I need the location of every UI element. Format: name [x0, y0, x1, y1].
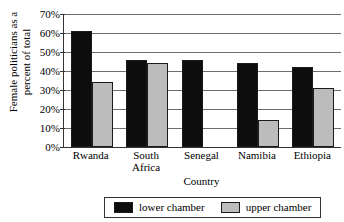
bar-group [182, 14, 224, 147]
y-axis-tick-label: 60% [40, 28, 60, 39]
y-axis-tick-mark [60, 147, 65, 148]
bar-lower-chamber [237, 63, 258, 147]
y-axis-tick-label: 30% [40, 85, 60, 96]
legend-entry: upper chamber [221, 202, 312, 213]
x-axis-tick-label: South Africa [118, 149, 173, 173]
legend-swatch-icon [114, 202, 133, 213]
y-axis-title-line-1: Female politicians as a [7, 12, 20, 113]
bar-upper-chamber [147, 63, 168, 147]
x-axis-tick-label: Namibia [229, 149, 284, 161]
bar-upper-chamber [258, 120, 279, 147]
bar-lower-chamber [71, 31, 92, 147]
legend-entry: lower chamber [114, 202, 205, 213]
chart-legend: lower chamberupper chamber [104, 197, 321, 218]
bar-chart-figure: Female politicians as a percent of total… [0, 0, 344, 222]
bar-lower-chamber [292, 67, 313, 147]
bars-layer [64, 14, 341, 147]
y-axis-tick-label: 70% [40, 9, 60, 20]
y-axis-tick-label: 0% [45, 142, 60, 153]
y-axis-tick-label: 50% [40, 47, 60, 58]
bar-lower-chamber [126, 60, 147, 147]
y-axis-tick-label: 10% [40, 123, 60, 134]
plot-area [63, 14, 341, 148]
bar-upper-chamber [92, 82, 113, 147]
x-axis-tick-label: Rwanda [63, 149, 118, 161]
legend-label: lower chamber [139, 202, 205, 213]
x-axis-tick-labels: RwandaSouth AfricaSenegalNamibiaEthiopia [63, 149, 340, 175]
bar-lower-chamber [182, 60, 203, 147]
bar-group [126, 14, 168, 147]
bar-group [71, 14, 113, 147]
bar-group [292, 14, 334, 147]
legend-swatch-icon [221, 202, 240, 213]
x-axis-tick-label: Ethiopia [285, 149, 340, 161]
y-axis-tick-label: 20% [40, 104, 60, 115]
y-axis-tick-labels: 0%10%20%30%40%50%60%70% [26, 8, 62, 154]
bar-group [237, 14, 279, 147]
x-axis-tick-label: Senegal [174, 149, 229, 161]
x-axis-title: Country [63, 175, 340, 187]
y-axis-tick-label: 40% [40, 66, 60, 77]
bar-upper-chamber [313, 88, 334, 147]
legend-label: upper chamber [246, 202, 312, 213]
